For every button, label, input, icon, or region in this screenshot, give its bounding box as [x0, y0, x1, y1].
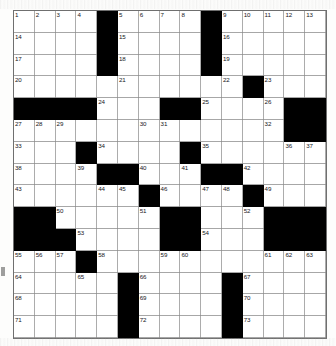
crossword-cell[interactable] — [305, 185, 326, 207]
crossword-cell[interactable] — [97, 294, 118, 316]
crossword-cell[interactable] — [180, 76, 201, 98]
crossword-cell[interactable] — [76, 120, 97, 142]
crossword-cell[interactable] — [35, 33, 56, 55]
crossword-cell[interactable] — [243, 142, 264, 164]
crossword-cell[interactable] — [35, 273, 56, 295]
crossword-cell[interactable] — [76, 76, 97, 98]
crossword-cell[interactable] — [180, 55, 201, 77]
crossword-cell[interactable]: 41 — [180, 164, 201, 186]
crossword-cell[interactable]: 24 — [97, 98, 118, 120]
crossword-cell[interactable] — [201, 273, 222, 295]
crossword-cell[interactable]: 4 — [76, 11, 97, 33]
crossword-cell[interactable]: 72 — [139, 316, 160, 338]
crossword-cell[interactable]: 46 — [160, 185, 181, 207]
crossword-cell[interactable]: 65 — [76, 273, 97, 295]
crossword-cell[interactable]: 8 — [180, 11, 201, 33]
crossword-cell[interactable] — [264, 33, 285, 55]
crossword-cell[interactable] — [118, 120, 139, 142]
crossword-cell[interactable] — [76, 55, 97, 77]
crossword-cell[interactable] — [243, 251, 264, 273]
crossword-cell[interactable]: 28 — [35, 120, 56, 142]
crossword-cell[interactable] — [305, 294, 326, 316]
crossword-cell[interactable]: 47 — [201, 185, 222, 207]
crossword-cell[interactable] — [56, 273, 77, 295]
crossword-cell[interactable]: 66 — [139, 273, 160, 295]
crossword-cell[interactable] — [201, 251, 222, 273]
crossword-cell[interactable]: 68 — [14, 294, 35, 316]
crossword-cell[interactable]: 37 — [305, 142, 326, 164]
crossword-cell[interactable] — [35, 142, 56, 164]
crossword-cell[interactable] — [139, 98, 160, 120]
crossword-cell[interactable] — [76, 185, 97, 207]
crossword-cell[interactable] — [97, 76, 118, 98]
crossword-cell[interactable]: 11 — [264, 11, 285, 33]
crossword-cell[interactable]: 40 — [139, 164, 160, 186]
crossword-cell[interactable]: 3 — [56, 11, 77, 33]
crossword-cell[interactable] — [264, 55, 285, 77]
crossword-cell[interactable]: 2 — [35, 11, 56, 33]
crossword-cell[interactable] — [118, 98, 139, 120]
crossword-cell[interactable]: 26 — [264, 98, 285, 120]
crossword-cell[interactable] — [76, 33, 97, 55]
crossword-cell[interactable] — [180, 316, 201, 338]
crossword-grid[interactable]: 1234567891011121314151617181920212223242… — [13, 10, 327, 339]
crossword-cell[interactable] — [56, 76, 77, 98]
crossword-cell[interactable]: 5 — [118, 11, 139, 33]
crossword-cell[interactable] — [180, 120, 201, 142]
crossword-cell[interactable]: 23 — [264, 76, 285, 98]
crossword-cell[interactable] — [222, 142, 243, 164]
crossword-cell[interactable] — [243, 98, 264, 120]
crossword-cell[interactable]: 63 — [305, 251, 326, 273]
crossword-cell[interactable] — [305, 55, 326, 77]
crossword-cell[interactable]: 15 — [118, 33, 139, 55]
crossword-cell[interactable] — [97, 207, 118, 229]
crossword-cell[interactable]: 61 — [264, 251, 285, 273]
crossword-cell[interactable] — [35, 316, 56, 338]
crossword-cell[interactable]: 36 — [284, 142, 305, 164]
crossword-cell[interactable] — [118, 229, 139, 251]
crossword-cell[interactable]: 69 — [139, 294, 160, 316]
crossword-cell[interactable]: 14 — [14, 33, 35, 55]
crossword-cell[interactable]: 12 — [284, 11, 305, 33]
crossword-cell[interactable]: 10 — [243, 11, 264, 33]
crossword-cell[interactable]: 57 — [56, 251, 77, 273]
crossword-cell[interactable]: 39 — [76, 164, 97, 186]
crossword-cell[interactable]: 54 — [201, 229, 222, 251]
crossword-cell[interactable] — [56, 185, 77, 207]
crossword-cell[interactable]: 48 — [222, 185, 243, 207]
crossword-cell[interactable] — [97, 120, 118, 142]
crossword-cell[interactable]: 27 — [14, 120, 35, 142]
crossword-cell[interactable] — [305, 33, 326, 55]
crossword-cell[interactable] — [97, 229, 118, 251]
crossword-cell[interactable] — [97, 316, 118, 338]
crossword-cell[interactable] — [264, 142, 285, 164]
crossword-cell[interactable] — [201, 76, 222, 98]
crossword-cell[interactable] — [118, 207, 139, 229]
crossword-cell[interactable]: 52 — [243, 207, 264, 229]
crossword-cell[interactable]: 44 — [97, 185, 118, 207]
crossword-cell[interactable] — [180, 33, 201, 55]
crossword-cell[interactable] — [284, 316, 305, 338]
crossword-cell[interactable]: 59 — [160, 251, 181, 273]
crossword-cell[interactable] — [180, 185, 201, 207]
crossword-cell[interactable] — [305, 76, 326, 98]
crossword-cell[interactable] — [160, 55, 181, 77]
crossword-cell[interactable] — [180, 273, 201, 295]
crossword-cell[interactable] — [35, 185, 56, 207]
crossword-cell[interactable] — [222, 229, 243, 251]
crossword-cell[interactable]: 6 — [139, 11, 160, 33]
crossword-cell[interactable] — [222, 98, 243, 120]
crossword-cell[interactable] — [35, 55, 56, 77]
crossword-cell[interactable]: 62 — [284, 251, 305, 273]
crossword-cell[interactable]: 58 — [97, 251, 118, 273]
crossword-cell[interactable]: 20 — [14, 76, 35, 98]
crossword-cell[interactable]: 16 — [222, 33, 243, 55]
crossword-cell[interactable]: 32 — [264, 120, 285, 142]
crossword-cell[interactable] — [139, 229, 160, 251]
crossword-cell[interactable] — [201, 207, 222, 229]
crossword-cell[interactable] — [139, 251, 160, 273]
crossword-cell[interactable] — [305, 273, 326, 295]
crossword-cell[interactable] — [139, 55, 160, 77]
crossword-cell[interactable] — [35, 294, 56, 316]
crossword-cell[interactable] — [284, 55, 305, 77]
